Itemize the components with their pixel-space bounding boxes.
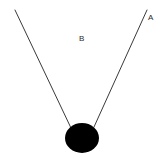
diagram-canvas: A B	[0, 0, 163, 158]
bob-ellipse	[65, 123, 99, 153]
label-b: B	[79, 35, 84, 43]
right-line	[94, 10, 147, 127]
label-a: A	[148, 14, 153, 22]
diagram-svg	[0, 0, 163, 158]
left-line	[15, 10, 71, 128]
